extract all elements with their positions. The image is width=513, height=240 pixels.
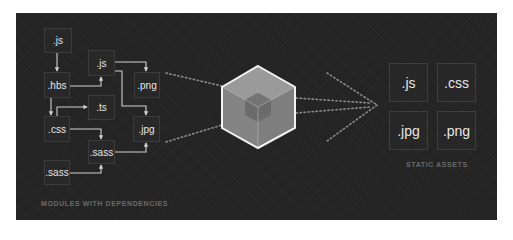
module-sass-base: .sass bbox=[44, 160, 70, 185]
asset-label: .png bbox=[443, 123, 470, 139]
module-label: .ts bbox=[96, 102, 107, 113]
module-png: .png bbox=[134, 72, 160, 98]
arrow-css-sass1 bbox=[70, 129, 101, 139]
module-label: .hbs bbox=[48, 80, 67, 91]
arrow-js2-png bbox=[115, 62, 146, 71]
module-hbs: .hbs bbox=[44, 72, 70, 98]
asset-label: .jpg bbox=[397, 123, 420, 139]
webpack-cube-icon bbox=[222, 66, 295, 148]
module-label: .css bbox=[48, 124, 66, 135]
module-css: .css bbox=[44, 116, 70, 142]
output-dotted-arrow bbox=[296, 73, 377, 141]
asset-js: .js bbox=[389, 63, 428, 102]
module-jpg: .jpg bbox=[133, 116, 160, 142]
module-label: .sass bbox=[90, 147, 113, 158]
module-ts: .ts bbox=[88, 95, 115, 120]
modules-caption: MODULES WITH DEPENDENCIES bbox=[41, 200, 168, 207]
asset-label: .js bbox=[402, 75, 416, 91]
module-label: .sass bbox=[45, 167, 68, 178]
asset-label: .css bbox=[444, 75, 469, 91]
module-label: .js bbox=[97, 58, 107, 69]
module-js: .js bbox=[88, 50, 115, 76]
arrow-sass2-sass1 bbox=[70, 165, 101, 173]
arrow-css-ts bbox=[57, 107, 87, 116]
arrow-sass1-jpg bbox=[115, 143, 146, 152]
input-dotted-lines bbox=[166, 73, 222, 142]
module-label: .png bbox=[137, 80, 156, 91]
assets-caption: STATIC ASSETS bbox=[406, 161, 468, 168]
arrow-hbs-js2 bbox=[70, 77, 101, 86]
module-js-entry: .js bbox=[44, 28, 72, 53]
asset-css: .css bbox=[437, 63, 476, 102]
asset-jpg: .jpg bbox=[389, 111, 428, 150]
asset-png: .png bbox=[437, 111, 476, 150]
module-sass: .sass bbox=[88, 140, 115, 164]
module-label: .jpg bbox=[138, 124, 154, 135]
module-label: .js bbox=[53, 35, 63, 46]
